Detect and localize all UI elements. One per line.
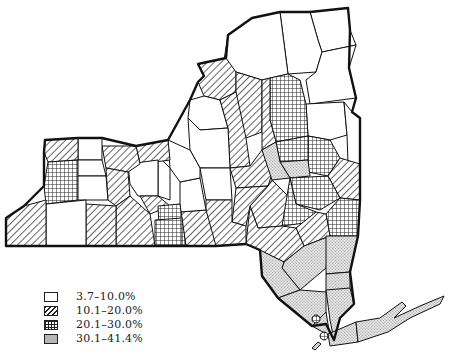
- legend-label: 20.1–30.0%: [76, 318, 143, 331]
- legend-item-grid: 20.1–30.0%: [44, 318, 174, 331]
- county-erie: [44, 160, 78, 204]
- county-cattaraugus: [46, 200, 86, 246]
- legend-item-hatch: 10.1–20.0%: [44, 304, 174, 317]
- county-chautauqua: [6, 200, 46, 246]
- county-cortland: [200, 168, 232, 200]
- county-orleans: [78, 138, 102, 160]
- map-legend: 3.7–10.0% 10.1–20.0% 20.1–30.0% 30.1–41.…: [44, 290, 174, 346]
- county-richmond: [312, 342, 321, 350]
- county-hamilton: [270, 74, 308, 142]
- county-warren: [306, 102, 347, 140]
- legend-label: 3.7–10.0%: [76, 290, 136, 303]
- county-nyc-kings-queens: [320, 332, 328, 340]
- county-seneca: [158, 156, 170, 200]
- county-jefferson: [198, 58, 236, 100]
- legend-item-stipple: 30.1–41.4%: [44, 332, 174, 345]
- county-allegany: [86, 204, 116, 246]
- county-suffolk: [356, 296, 444, 342]
- county-genesee: [78, 160, 106, 176]
- blank-swatch-icon: [44, 292, 58, 302]
- county-niagara: [44, 138, 78, 162]
- county-tompkins: [180, 178, 206, 212]
- county-chemung: [155, 218, 182, 246]
- hatch-swatch-icon: [44, 306, 58, 316]
- county-wyoming: [78, 176, 108, 200]
- legend-item-blank: 3.7–10.0%: [44, 290, 174, 303]
- legend-label: 10.1–20.0%: [76, 304, 143, 317]
- county-nyc-bronx: [312, 315, 320, 323]
- grid-swatch-icon: [44, 320, 58, 330]
- stipple-swatch-icon: [44, 334, 58, 344]
- legend-label: 30.1–41.4%: [76, 332, 143, 345]
